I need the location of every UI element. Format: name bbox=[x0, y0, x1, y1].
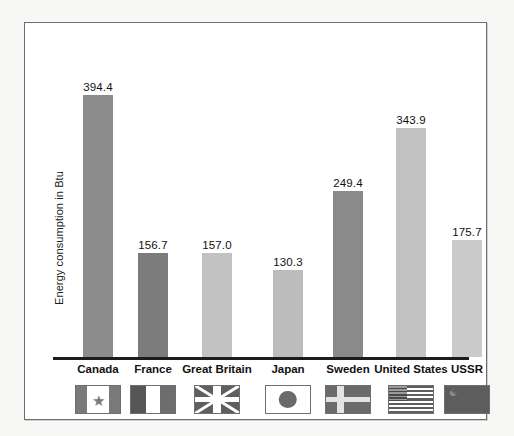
bar-rect[interactable] bbox=[396, 128, 426, 357]
bar-value-label: 130.3 bbox=[273, 256, 302, 268]
us-flag-stripe bbox=[389, 407, 433, 409]
bar-series: 394.4156.7157.0130.3249.4343.9175.7 bbox=[53, 31, 473, 357]
japan-flag bbox=[265, 385, 311, 414]
maple-leaf-icon: ★ bbox=[92, 392, 105, 407]
flag-cell bbox=[193, 385, 241, 414]
bar-column[interactable]: 156.7 bbox=[138, 239, 168, 357]
bar-value-label: 157.0 bbox=[202, 239, 231, 251]
united-states-flag bbox=[388, 385, 434, 414]
category-label-ussr: USSR bbox=[438, 363, 496, 375]
flag-cell bbox=[264, 385, 312, 414]
bar-rect[interactable] bbox=[202, 253, 232, 357]
bar-rect[interactable] bbox=[83, 95, 113, 357]
france-flag-band-3 bbox=[160, 386, 175, 413]
bar-column[interactable]: 175.7 bbox=[452, 226, 482, 357]
great-britain-flag bbox=[194, 385, 240, 414]
us-flag-canton bbox=[389, 386, 407, 401]
us-flag-star-row bbox=[389, 389, 407, 391]
canada-flag-band-left bbox=[76, 386, 87, 413]
flag-cell bbox=[129, 385, 177, 414]
flag-cell bbox=[324, 385, 372, 414]
bar-value-label: 175.7 bbox=[452, 226, 481, 238]
category-label-japan: Japan bbox=[258, 363, 318, 375]
bar-value-label: 249.4 bbox=[333, 177, 362, 189]
chart-page: Energy consumption in Btu 394.4156.7157.… bbox=[0, 0, 514, 436]
bar-column[interactable]: 157.0 bbox=[202, 239, 232, 357]
category-labels: CanadaFranceGreat BritainJapanSwedenUnit… bbox=[53, 363, 473, 383]
category-label-great-britain: Great Britain bbox=[169, 363, 265, 375]
bar-rect[interactable] bbox=[273, 270, 303, 357]
bar-column[interactable]: 249.4 bbox=[333, 177, 363, 357]
france-flag bbox=[130, 385, 176, 414]
bar-value-label: 394.4 bbox=[83, 81, 112, 93]
flag-cell: ★ bbox=[74, 385, 122, 414]
us-flag-star-row bbox=[389, 386, 407, 388]
france-flag-band-2 bbox=[146, 386, 161, 413]
flag-cell: ☯ bbox=[443, 385, 491, 414]
chart-frame: Energy consumption in Btu 394.4156.7157.… bbox=[24, 22, 487, 420]
hammer-and-sickle-icon: ☯ bbox=[449, 389, 457, 398]
union-jack-vertical-bar bbox=[213, 386, 222, 413]
us-flag-star-row bbox=[389, 392, 407, 394]
us-flag-stripe bbox=[389, 411, 433, 413]
y-axis-label: Energy consumption in Btu bbox=[19, 0, 31, 135]
flag-icons-row: ★☯ bbox=[53, 385, 473, 425]
bar-value-label: 156.7 bbox=[138, 239, 167, 251]
bar-column[interactable]: 130.3 bbox=[273, 256, 303, 357]
bar-rect[interactable] bbox=[138, 253, 168, 357]
bar-column[interactable]: 343.9 bbox=[396, 114, 426, 357]
rising-sun-disc-icon bbox=[279, 391, 297, 409]
us-flag-star-row bbox=[389, 396, 407, 398]
france-flag-band-1 bbox=[131, 386, 146, 413]
us-flag-stripe bbox=[389, 403, 433, 405]
ussr-flag: ☯ bbox=[444, 385, 490, 414]
canada-flag-band-right bbox=[109, 386, 120, 413]
x-axis-line bbox=[53, 357, 469, 360]
bar-rect[interactable] bbox=[452, 240, 482, 357]
us-flag-star-row bbox=[389, 399, 407, 401]
bar-column[interactable]: 394.4 bbox=[83, 81, 113, 357]
bar-rect[interactable] bbox=[333, 191, 363, 357]
canada-flag: ★ bbox=[75, 385, 121, 414]
flag-cell bbox=[387, 385, 435, 414]
nordic-cross-horizontal bbox=[326, 397, 370, 402]
sweden-flag bbox=[325, 385, 371, 414]
bar-value-label: 343.9 bbox=[396, 114, 425, 126]
nordic-cross-vertical bbox=[337, 386, 344, 413]
